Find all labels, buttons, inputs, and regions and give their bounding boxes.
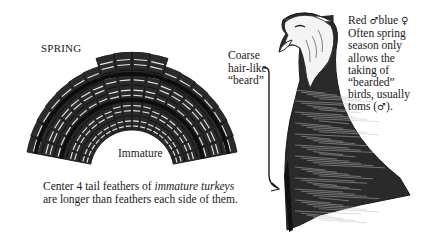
feather-bar [133,106,141,107]
feather-bar [134,90,144,91]
female-symbol-icon: ♀ [401,15,408,26]
feather-bar [124,111,131,112]
tail-label: Immature [118,147,163,159]
beard-label: Coarse hair-like “beard” [228,49,267,87]
caption-line: Center 4 tail feathers of immature turke… [43,180,238,193]
feather-bar [133,95,142,96]
male-symbol-icon: ♂ [377,101,386,112]
feather-bar [124,116,131,117]
hatch-line [313,218,355,221]
caption-text: Center 4 tail feathers of [43,180,154,192]
beard-label-line: “beard” [228,74,267,87]
note-line: taking of [348,64,445,76]
note-line: allows the [348,52,445,64]
figure-caption: Center 4 tail feathers of immature turke… [43,180,238,206]
season-label: SPRING [41,42,81,54]
note-line: Often spring [348,27,445,39]
caption-emphasis: immature turkeys [154,180,234,192]
beard-label-line: Coarse [228,49,267,62]
feather-bar [122,95,131,96]
hatch-line [319,220,367,223]
sex-identification-note: Red ♂blue ♀ Often spring season only all… [348,14,445,114]
note-text: blue [378,14,401,26]
note-text: toms ( [348,100,377,112]
note-line: birds, usually [348,88,445,100]
feather-bar [123,106,131,107]
note-text: Red [348,14,369,26]
note-line: Red ♂blue ♀ [348,14,445,27]
feather-bar [120,85,130,86]
feather-bar [133,116,140,117]
feather-bar [134,85,144,86]
beard-label-line: hair-like [228,62,267,75]
feather-bar [133,111,140,112]
caption-line: are longer than feathers each side of th… [43,193,238,206]
feather-bar [121,90,131,91]
note-line: season only [348,39,445,51]
note-text: ). [386,100,393,112]
note-line: toms (♂). [348,100,445,113]
note-line: “bearded” [348,76,445,88]
